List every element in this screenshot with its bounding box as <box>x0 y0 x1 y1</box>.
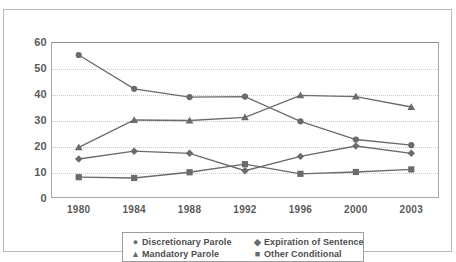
legend-item-discretionary-parole[interactable]: ●Discretionary Parole <box>131 237 232 248</box>
series-0 <box>76 52 415 148</box>
clipped-title <box>0 0 456 8</box>
series-2 <box>75 91 415 150</box>
data-point-marker <box>75 155 82 162</box>
legend-item-expiration-of-sentence[interactable]: ◆Expiration of Sentence <box>253 237 364 248</box>
y-tick-label: 0 <box>7 192 47 204</box>
data-point-marker <box>297 118 303 124</box>
data-point-marker <box>186 169 192 175</box>
data-point-marker <box>353 136 359 142</box>
data-point-marker <box>297 153 304 160</box>
series-layer <box>51 42 439 198</box>
y-axis-tick-labels: 0102030405060 <box>4 42 47 198</box>
square-marker-icon: ■ <box>253 249 262 260</box>
data-point-marker <box>186 94 192 100</box>
legend-label: Other Conditional <box>264 249 342 259</box>
legend-item-other-conditional[interactable]: ■Other Conditional <box>253 249 342 260</box>
data-point-marker <box>75 143 83 150</box>
x-tick-label: 1996 <box>289 204 312 215</box>
data-point-marker <box>130 147 137 154</box>
data-point-marker <box>76 174 82 180</box>
legend-label: Expiration of Sentence <box>264 237 364 247</box>
series-1 <box>75 142 415 174</box>
data-point-marker <box>408 142 414 148</box>
diamond-marker-icon: ◆ <box>253 237 262 248</box>
x-tick-label: 1984 <box>122 204 145 215</box>
legend-label: Discretionary Parole <box>142 237 232 247</box>
data-point-marker <box>353 169 359 175</box>
data-point-marker <box>131 175 137 181</box>
chart-legend: ●Discretionary Parole◆Expiration of Sent… <box>122 232 364 262</box>
legend-label: Mandatory Parole <box>142 249 219 259</box>
y-tick-label: 10 <box>7 166 47 178</box>
data-point-marker <box>408 150 415 157</box>
x-tick-label: 1988 <box>178 204 201 215</box>
x-tick-label: 2000 <box>344 204 367 215</box>
y-tick-label: 40 <box>7 88 47 100</box>
legend-item-mandatory-parole[interactable]: ▲Mandatory Parole <box>131 249 219 260</box>
data-point-marker <box>352 142 359 149</box>
data-point-marker <box>241 167 248 174</box>
y-tick-label: 20 <box>7 140 47 152</box>
data-point-marker <box>408 166 414 172</box>
chart-frame: 0102030405060 ●Discretionary Parole◆Expi… <box>3 9 452 252</box>
data-point-marker <box>131 86 137 92</box>
y-tick-label: 60 <box>7 36 47 48</box>
y-tick-label: 30 <box>7 114 47 126</box>
data-point-marker <box>76 52 82 58</box>
x-tick-label: 1992 <box>233 204 256 215</box>
series-line <box>79 55 412 145</box>
data-point-marker <box>242 161 248 167</box>
x-tick-label: 1980 <box>67 204 90 215</box>
data-point-marker <box>242 94 248 100</box>
circle-marker-icon: ● <box>131 237 140 248</box>
x-tick-label: 2003 <box>400 204 423 215</box>
y-tick-label: 50 <box>7 62 47 74</box>
data-point-marker <box>186 150 193 157</box>
triangle-marker-icon: ▲ <box>131 249 140 260</box>
data-point-marker <box>297 171 303 177</box>
